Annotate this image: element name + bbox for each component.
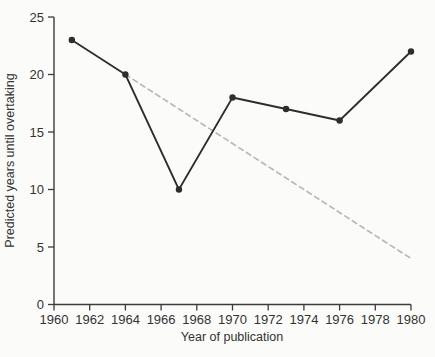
data-point-1980: [408, 48, 414, 54]
x-axis-label: Year of publication: [181, 330, 283, 344]
x-tick-label: 1972: [254, 312, 283, 327]
data-point-1973: [283, 106, 289, 112]
y-tick-label: 20: [30, 67, 44, 82]
data-point-1967: [176, 186, 182, 192]
data-point-1964: [122, 71, 128, 77]
series-predictions-line: [72, 40, 411, 190]
x-tick-label: 1968: [182, 312, 211, 327]
y-tick-label: 15: [30, 125, 44, 140]
y-axis-label: Predicted years until overtaking: [3, 73, 17, 247]
x-tick-label: 1974: [289, 312, 318, 327]
line-chart: 0510152025196019621964196619681970197219…: [0, 0, 435, 357]
y-tick-label: 25: [30, 10, 44, 25]
x-tick-label: 1980: [397, 312, 426, 327]
y-tick-label: 5: [37, 240, 44, 255]
x-tick-label: 1960: [40, 312, 69, 327]
y-tick-label: 10: [30, 182, 44, 197]
data-point-1970: [229, 94, 235, 100]
x-tick-label: 1978: [361, 312, 390, 327]
x-tick-label: 1964: [111, 312, 140, 327]
x-tick-label: 1976: [325, 312, 354, 327]
x-tick-label: 1970: [218, 312, 247, 327]
y-tick-label: 0: [37, 297, 44, 312]
chart-figure: 0510152025196019621964196619681970197219…: [0, 0, 435, 357]
data-point-1976: [336, 117, 342, 123]
data-point-1961: [69, 37, 75, 43]
x-tick-label: 1966: [147, 312, 176, 327]
x-tick-label: 1962: [75, 312, 104, 327]
